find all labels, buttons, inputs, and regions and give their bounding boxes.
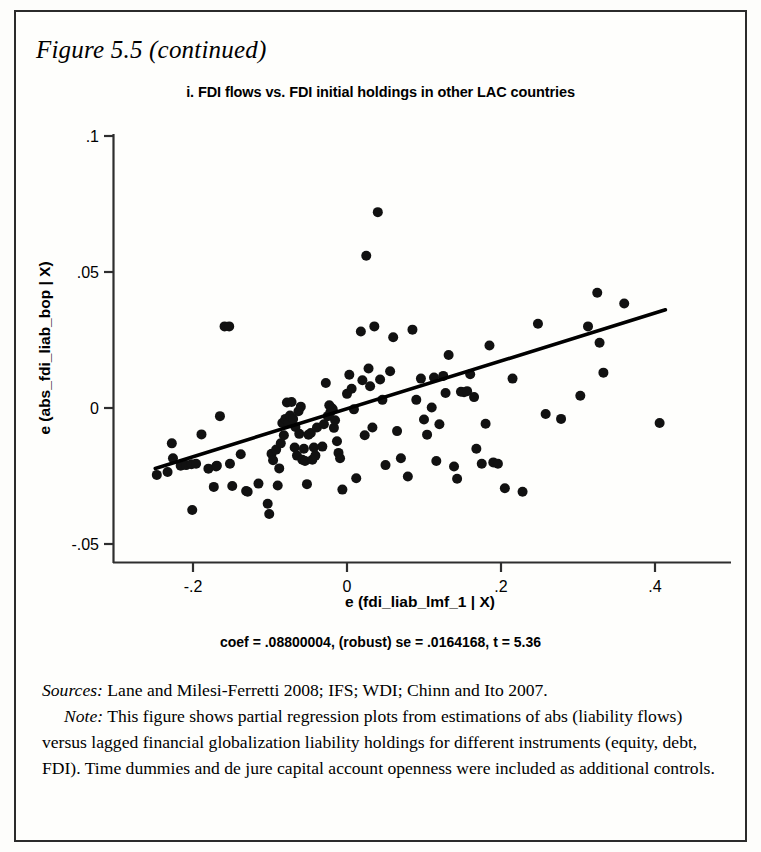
scatter-point: [268, 455, 278, 465]
x-tick-label: -.2: [184, 578, 203, 595]
scatter-point: [310, 451, 320, 461]
note-paragraph: Note: This figure shows partial regressi…: [42, 704, 718, 782]
sources-text: Lane and Milesi-Ferretti 2008; IFS; WDI;…: [103, 680, 548, 700]
scatter-point: [416, 374, 426, 384]
scatter-point: [434, 419, 444, 429]
y-tick-label: .1: [86, 128, 99, 145]
scatter-point: [518, 487, 528, 497]
scatter-point: [444, 350, 454, 360]
scatter-point: [299, 444, 309, 454]
y-axis-ticks: -.050.05.1: [71, 128, 113, 553]
scatter-point: [225, 459, 235, 469]
scatter-point: [224, 321, 234, 331]
sources-label: Sources:: [42, 680, 103, 700]
scatter-point: [388, 332, 398, 342]
scatter-point: [484, 340, 494, 350]
scatter-points: [152, 207, 665, 519]
scatter-point: [212, 461, 222, 471]
scatter-point: [253, 479, 263, 489]
scatter-point: [575, 391, 585, 401]
scatter-point: [167, 438, 177, 448]
scatter-point: [294, 429, 304, 439]
scatter-point: [209, 482, 219, 492]
scatter-point: [187, 505, 197, 515]
scatter-point: [452, 474, 462, 484]
scatter-point: [655, 418, 665, 428]
scatter-point: [361, 251, 371, 261]
scatter-point: [196, 429, 206, 439]
scatter-plot: -.050.05.1 -.20.2.4 e (abs_fdi_liab_bop …: [0, 0, 761, 680]
plot-svg: -.050.05.1 -.20.2.4 e (abs_fdi_liab_bop …: [0, 0, 761, 680]
scatter-point: [296, 402, 306, 412]
scatter-point: [396, 453, 406, 463]
y-tick-label: -.05: [71, 536, 99, 553]
scatter-point: [481, 419, 491, 429]
scatter-point: [369, 321, 379, 331]
scatter-point: [533, 319, 543, 329]
scatter-point: [274, 463, 284, 473]
scatter-point: [337, 485, 347, 495]
scatter-point: [163, 467, 173, 477]
scatter-point: [191, 459, 201, 469]
scatter-point: [365, 381, 375, 391]
scatter-point: [264, 509, 274, 519]
scatter-point: [375, 374, 385, 384]
scatter-point: [373, 207, 383, 217]
scatter-point: [381, 460, 391, 470]
scatter-point: [335, 453, 345, 463]
coefficient-annotation: coef = .08800004, (robust) se = .0164168…: [0, 634, 761, 650]
scatter-point: [541, 409, 551, 419]
scatter-point: [431, 456, 441, 466]
scatter-point: [556, 414, 566, 424]
scatter-point: [227, 481, 237, 491]
x-axis-ticks: -.20.2.4: [184, 562, 662, 595]
scatter-point: [360, 430, 370, 440]
scatter-point: [619, 299, 629, 309]
scatter-point: [321, 378, 331, 388]
scatter-point: [598, 368, 608, 378]
scatter-point: [364, 364, 374, 374]
scatter-point: [263, 499, 273, 509]
scatter-point: [356, 327, 366, 337]
scatter-point: [411, 395, 421, 405]
y-tick-label: .05: [77, 264, 99, 281]
scatter-point: [595, 338, 605, 348]
x-tick-label: .2: [494, 578, 507, 595]
note-text: This figure shows partial regression plo…: [42, 706, 715, 778]
scatter-point: [236, 449, 246, 459]
plot-axes: -.050.05.1 -.20.2.4: [71, 128, 731, 595]
scatter-point: [392, 426, 402, 436]
scatter-point: [419, 414, 429, 424]
note-label: Note:: [64, 706, 103, 726]
scatter-point: [422, 430, 432, 440]
scatter-point: [279, 430, 289, 440]
scatter-point: [477, 459, 487, 469]
scatter-point: [449, 461, 459, 471]
scatter-point: [215, 411, 225, 421]
scatter-point: [332, 436, 342, 446]
scatter-point: [469, 392, 479, 402]
scatter-point: [427, 402, 437, 412]
sources-paragraph: Sources: Lane and Milesi-Ferretti 2008; …: [42, 678, 718, 704]
scatter-point: [493, 459, 503, 469]
x-tick-label: .4: [648, 578, 661, 595]
scatter-point: [441, 388, 451, 398]
scatter-point: [273, 481, 283, 491]
figure-notes: Sources: Lane and Milesi-Ferretti 2008; …: [42, 678, 718, 781]
scatter-point: [287, 397, 297, 407]
scatter-point: [583, 321, 593, 331]
scatter-point: [500, 483, 510, 493]
x-axis-label: e (fdi_liab_lmf_1 | X): [345, 593, 495, 610]
scatter-point: [344, 370, 354, 380]
scatter-point: [330, 415, 340, 425]
scatter-point: [243, 487, 253, 497]
figure-page: Figure 5.5 (continued) i. FDI flows vs. …: [0, 0, 761, 852]
scatter-point: [385, 366, 395, 376]
scatter-point: [302, 479, 312, 489]
scatter-point: [152, 470, 162, 480]
scatter-point: [351, 473, 361, 483]
y-axis-label: e (abs_fdi_liab_bop | X): [36, 261, 53, 434]
scatter-point: [592, 288, 602, 298]
scatter-point: [403, 472, 413, 482]
scatter-point: [347, 384, 357, 394]
